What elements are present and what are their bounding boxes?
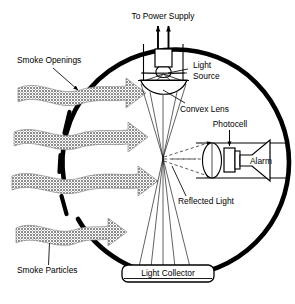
smoke-arrow <box>16 218 127 246</box>
label-convex-lens: Convex Lens <box>180 104 229 114</box>
label-light-source-line2: Source <box>193 71 220 81</box>
label-reflected-light: Reflected Light <box>178 196 235 206</box>
label-smoke-openings: Smoke Openings <box>17 55 81 65</box>
photocell-contact <box>235 151 240 169</box>
smoke-arrow <box>12 166 158 196</box>
light-source-body <box>155 49 172 67</box>
photocell-alarm-assembly <box>196 130 289 181</box>
label-to-power-supply: To Power Supply <box>132 11 196 21</box>
leader-smoke-openings <box>53 68 78 90</box>
wall-dash <box>60 155 61 172</box>
wall-dash <box>62 196 67 214</box>
label-light-source-line1: Light <box>193 60 212 70</box>
smoke-detector-diagram: To Power Supply Smoke Openings Light Sou… <box>0 0 295 304</box>
label-alarm: Alarm <box>250 156 272 166</box>
diagram-canvas: To Power Supply Smoke Openings Light Sou… <box>0 0 295 304</box>
smoke-arrows-group <box>12 78 158 246</box>
label-smoke-particles: Smoke Particles <box>17 265 78 275</box>
leader-smoke-particles <box>49 243 50 265</box>
smoke-arrow <box>14 122 148 152</box>
smoke-arrow <box>18 78 146 108</box>
power-supply-arrows <box>158 26 169 51</box>
label-light-collector: Light Collector <box>141 268 195 278</box>
convex-lens <box>141 80 188 94</box>
leader-reflected-light <box>172 166 186 196</box>
photocell <box>224 148 235 172</box>
label-photocell: Photocell <box>213 119 248 129</box>
